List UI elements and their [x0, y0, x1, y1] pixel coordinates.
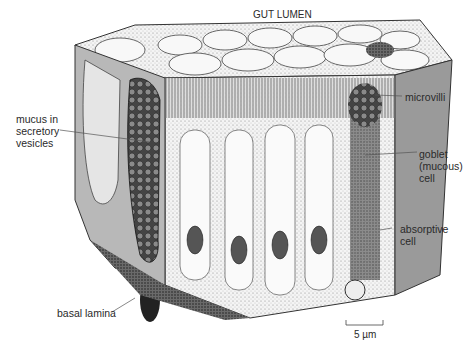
- absorptive-cell-label: absorptive cell: [400, 223, 448, 247]
- mucus-vesicles-label: mucus in secretory vesicles: [16, 113, 59, 149]
- goblet-cell-label: goblet (mucous) cell: [419, 148, 463, 184]
- scale-bar-label: 5 µm: [354, 329, 376, 341]
- gut-lumen-label: GUT LUMEN: [253, 9, 312, 21]
- scale-bar: [346, 320, 383, 325]
- epithelium-block-illustration: [0, 0, 472, 351]
- microvilli-label: microvilli: [405, 91, 445, 103]
- basal-lamina-label: basal lamina: [57, 307, 116, 319]
